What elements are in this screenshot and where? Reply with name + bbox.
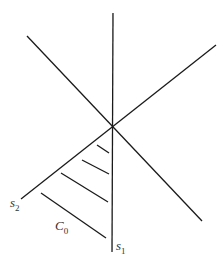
label-s1: s1 — [116, 239, 126, 256]
label-c0-sub: 0 — [64, 226, 69, 236]
line-third-diagonal — [27, 36, 202, 221]
hatch-line-4 — [41, 193, 106, 238]
label-s1-sub: 1 — [121, 246, 126, 256]
line-s1-vertical — [112, 13, 113, 252]
cone-diagram — [0, 0, 223, 261]
hatch-line-3 — [61, 173, 108, 202]
label-c0-base: C — [55, 218, 64, 233]
label-c0: C0 — [55, 219, 68, 236]
line-s2-diagonal — [21, 45, 216, 199]
hatch-line-2 — [82, 160, 109, 174]
label-s2: s2 — [10, 196, 20, 213]
label-s2-sub: 2 — [15, 203, 20, 213]
hatch-line-1 — [97, 145, 109, 153]
